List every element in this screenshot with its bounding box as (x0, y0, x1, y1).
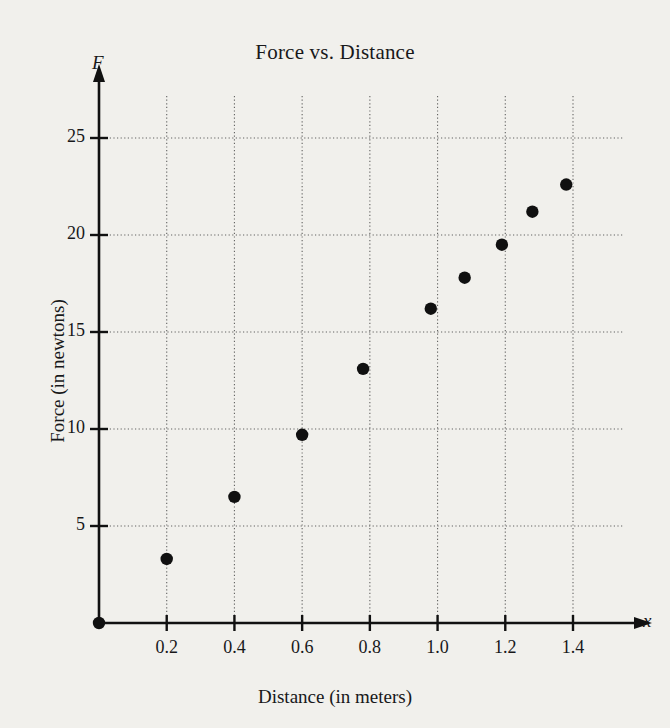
chart-figure: Force vs. Distance F x Distance (in mete… (0, 0, 670, 728)
y-tick-label: 5 (41, 514, 85, 535)
x-tick-label: 1.4 (546, 637, 600, 658)
data-point (296, 429, 308, 441)
x-tick-label: 1.0 (411, 637, 465, 658)
data-point (526, 206, 538, 218)
x-tick-label: 0.6 (275, 637, 329, 658)
data-point (228, 491, 240, 503)
data-point (161, 553, 173, 565)
x-tick-label: 0.8 (343, 637, 397, 658)
data-point (458, 271, 470, 283)
y-tick-label: 25 (41, 126, 85, 147)
data-point (357, 363, 369, 375)
x-tick-label: 1.2 (478, 637, 532, 658)
data-point (93, 617, 105, 629)
x-tick-label: 0.4 (207, 637, 261, 658)
y-axis-arrow (93, 64, 105, 82)
data-point (560, 178, 572, 190)
x-tick-label: 0.2 (140, 637, 194, 658)
data-point (496, 239, 508, 251)
y-tick-label: 20 (41, 223, 85, 244)
y-tick-label: 10 (41, 417, 85, 438)
data-point (425, 303, 437, 315)
scatter-plot-canvas (0, 0, 670, 728)
x-axis-arrow (634, 617, 652, 629)
y-tick-label: 15 (41, 320, 85, 341)
